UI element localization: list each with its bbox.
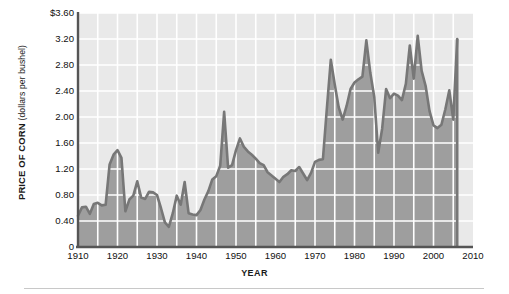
x-axis-tick-label: 1990 xyxy=(373,250,415,262)
x-axis-tick-label: 1980 xyxy=(334,250,376,262)
bottom-divider xyxy=(24,288,484,289)
x-axis-tick-label: 1910 xyxy=(57,250,99,262)
x-axis-tick-labels: 1910192019301940195019601970198019902000… xyxy=(0,250,509,266)
x-axis-tick-label: 1960 xyxy=(255,250,297,262)
x-axis-tick-label: 2010 xyxy=(452,250,494,262)
corn-price-chart-figure: PRICE OF CORN (dollars per bushel) 00.40… xyxy=(0,0,509,294)
x-axis-tick-label: 1950 xyxy=(215,250,257,262)
x-axis-tick-label: 1920 xyxy=(97,250,139,262)
x-axis-tick-label: 1970 xyxy=(294,250,336,262)
x-axis-title: YEAR xyxy=(0,268,509,278)
x-axis-tick-label: 1940 xyxy=(176,250,218,262)
x-axis-tick-label: 2000 xyxy=(413,250,455,262)
x-axis-tick-label: 1930 xyxy=(136,250,178,262)
